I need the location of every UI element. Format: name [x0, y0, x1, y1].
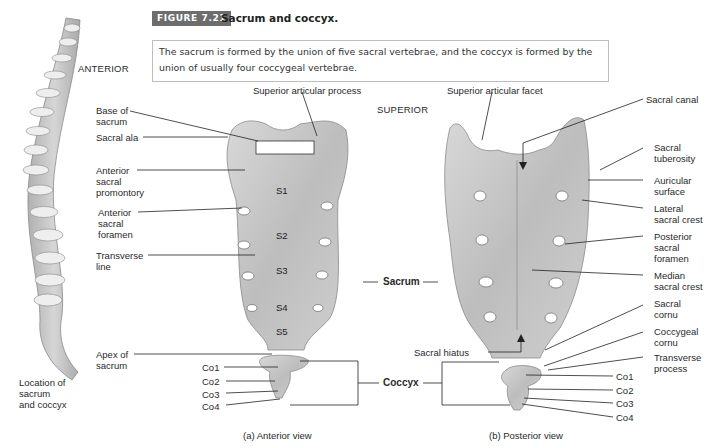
- label-line: Median: [654, 270, 703, 281]
- label-coccygeal-cornu: Coccygeal cornu: [654, 326, 698, 348]
- label-anterior-co1: Co1: [202, 362, 219, 373]
- label-line: Posterior: [654, 231, 692, 242]
- superior-orientation-label: SUPERIOR: [377, 104, 428, 115]
- label-line: sacrum: [96, 116, 128, 127]
- figure-title: Sacrum and coccyx.: [221, 10, 338, 27]
- label-median-sacral-crest: Median sacral crest: [654, 270, 703, 292]
- segment-s3: S3: [276, 265, 288, 276]
- spine-caption: Location of sacrum and coccyx: [19, 377, 67, 410]
- label-posterior-co4: Co4: [616, 412, 633, 423]
- segment-s1: S1: [276, 185, 288, 196]
- label-anterior-sacral-promontory: Anterior sacral promontory: [96, 165, 144, 198]
- label-line: promontory: [96, 187, 144, 198]
- label-transverse-process: Transverse process: [654, 352, 701, 374]
- label-anterior-co2: Co2: [202, 376, 219, 387]
- label-coccyx: Coccyx: [383, 377, 419, 388]
- label-transverse-line: Transverse line: [96, 250, 143, 272]
- vertebral-column-illustration: [23, 18, 80, 380]
- label-posterior-co3: Co3: [616, 398, 633, 409]
- label-sacral-ala: Sacral ala: [96, 132, 138, 143]
- label-line: Anterior: [96, 165, 144, 176]
- anterior-orientation-label: ANTERIOR: [78, 63, 129, 74]
- label-line: Sacral: [654, 142, 695, 153]
- figure-caption: The sacrum is formed by the union of fiv…: [152, 40, 609, 82]
- label-line: cornu: [654, 337, 698, 348]
- label-anterior-co4: Co4: [202, 401, 219, 412]
- label-line: tuberosity: [654, 153, 695, 164]
- label-line: sacral: [96, 176, 144, 187]
- sacrum-anterior-illustration: [227, 121, 348, 398]
- label-line: Base of: [96, 105, 128, 116]
- label-line: Anterior: [98, 207, 133, 218]
- label-superior-articular-process: Superior articular process: [253, 85, 361, 96]
- figure-number-badge: FIGURE 7.21: [152, 11, 231, 26]
- spine-caption-line: sacrum: [19, 388, 67, 399]
- label-apex-of-sacrum: Apex of sacrum: [96, 349, 128, 371]
- label-sacral-tuberosity: Sacral tuberosity: [654, 142, 695, 164]
- anterior-view-subtitle: (a) Anterior view: [243, 430, 312, 441]
- label-line: sacral: [654, 242, 692, 253]
- label-line: Transverse: [96, 250, 143, 261]
- segment-s5: S5: [276, 326, 288, 337]
- label-line: sacrum: [96, 360, 128, 371]
- segment-s4: S4: [276, 302, 288, 313]
- segment-s2: S2: [276, 230, 288, 241]
- label-line: Auricular: [654, 175, 692, 186]
- sacrum-posterior-illustration: [445, 118, 589, 410]
- label-sacrum: Sacrum: [383, 276, 420, 287]
- label-line: Transverse: [654, 352, 701, 363]
- label-line: sacral crest: [654, 214, 703, 225]
- label-sacral-cornu: Sacral cornu: [654, 298, 681, 320]
- label-line: surface: [654, 186, 692, 197]
- label-posterior-sacral-foramen: Posterior sacral foramen: [654, 231, 692, 264]
- label-line: Apex of: [96, 349, 128, 360]
- label-posterior-co1: Co1: [616, 371, 633, 382]
- spine-caption-line: Location of: [19, 377, 67, 388]
- label-line: Sacral: [654, 298, 681, 309]
- label-line: process: [654, 363, 701, 374]
- label-line: Lateral: [654, 203, 703, 214]
- label-line: foramen: [98, 229, 133, 240]
- label-line: sacral: [98, 218, 133, 229]
- label-line: line: [96, 261, 143, 272]
- spine-caption-line: and coccyx: [19, 399, 67, 410]
- label-sacral-hiatus: Sacral hiatus: [414, 347, 469, 358]
- label-line: cornu: [654, 309, 681, 320]
- label-anterior-sacral-foramen: Anterior sacral foramen: [98, 207, 133, 240]
- label-line: Coccygeal: [654, 326, 698, 337]
- label-anterior-co3: Co3: [202, 389, 219, 400]
- label-lateral-sacral-crest: Lateral sacral crest: [654, 203, 703, 225]
- label-line: sacral crest: [654, 281, 703, 292]
- label-line: foramen: [654, 253, 692, 264]
- posterior-view-subtitle: (b) Posterior view: [489, 430, 563, 441]
- label-sacral-canal: Sacral canal: [646, 94, 698, 105]
- label-base-of-sacrum: Base of sacrum: [96, 105, 128, 127]
- label-posterior-co2: Co2: [616, 385, 633, 396]
- label-superior-articular-facet: Superior articular facet: [447, 85, 543, 96]
- label-auricular-surface: Auricular surface: [654, 175, 692, 197]
